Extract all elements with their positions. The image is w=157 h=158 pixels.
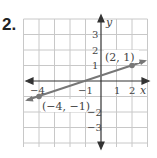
x-tick-2: 2	[129, 85, 135, 96]
y-tick-1: 1	[92, 60, 98, 71]
x-tick-1: 1	[114, 85, 120, 96]
annotation-2-1: (2, 1)	[105, 51, 135, 64]
x-tick-neg1: −1	[78, 85, 93, 96]
grid	[24, 19, 148, 147]
x-tick-neg4: −4	[30, 85, 45, 96]
x-axis-label: x	[140, 84, 147, 97]
y-tick-3: 3	[92, 29, 98, 40]
y-axis-label: y	[105, 16, 113, 29]
y-tick-neg3: −3	[87, 122, 102, 133]
coordinate-plane: −4 −1 1 2 x 3 2 1 −2 −3 y (2, 1) (−4, −1…	[0, 0, 157, 158]
y-tick-2: 2	[92, 45, 98, 56]
annotation-neg4-neg1: (−4, −1)	[42, 100, 90, 113]
